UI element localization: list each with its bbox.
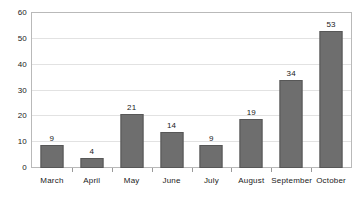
x-axis-category-label: June [152, 176, 192, 186]
x-axis-category-label: April [72, 176, 112, 186]
bar-slot: 21 [112, 13, 152, 168]
x-axis-tick [112, 168, 113, 172]
x-axis-tick [271, 168, 272, 172]
bar-slot: 4 [72, 13, 112, 168]
bar-slot: 9 [32, 13, 72, 168]
x-axis-tick [192, 168, 193, 172]
bar-slot: 9 [192, 13, 232, 168]
bar [160, 132, 183, 168]
x-axis-category-label: September [271, 176, 311, 186]
y-axis-tick-label: 10 [0, 138, 27, 146]
x-axis-category-label: July [192, 176, 232, 186]
bar [40, 145, 63, 168]
y-axis-labels: 6050403020100 [0, 0, 27, 200]
bar-value-label: 21 [127, 103, 136, 112]
x-axis-labels: MarchAprilMayJuneJulyAugustSeptemberOcto… [32, 176, 351, 192]
bar-slot: 53 [311, 13, 351, 168]
bar [280, 80, 303, 168]
bar [320, 31, 343, 168]
bar-value-label: 19 [247, 108, 256, 117]
bar [200, 145, 223, 168]
x-axis-category-label: August [231, 176, 271, 186]
x-axis-tick [231, 168, 232, 172]
bar-chart: 6050403020100 9421149193453 MarchAprilMa… [0, 0, 360, 200]
x-axis-tick [72, 168, 73, 172]
bar-value-label: 14 [167, 121, 176, 130]
bar [80, 158, 103, 168]
x-axis-tick [311, 168, 312, 172]
bar-value-label: 4 [89, 147, 94, 156]
y-axis-tick-label: 30 [0, 87, 27, 95]
y-axis-tick-label: 50 [0, 35, 27, 43]
bar-value-label: 9 [50, 134, 55, 143]
y-axis-tick-label: 20 [0, 112, 27, 120]
bar-slot: 34 [271, 13, 311, 168]
bar [240, 119, 263, 168]
bar-value-label: 34 [287, 69, 296, 78]
bar-slot: 19 [231, 13, 271, 168]
bars-container: 9421149193453 [32, 13, 351, 168]
y-axis-tick-label: 0 [0, 164, 27, 172]
y-axis-tick-label: 60 [0, 9, 27, 17]
bar-value-label: 53 [326, 20, 335, 29]
x-axis-ticks [32, 168, 351, 173]
x-axis-category-label: March [32, 176, 72, 186]
bar [120, 114, 143, 168]
x-axis-category-label: October [311, 176, 351, 186]
y-axis-tick-label: 40 [0, 61, 27, 69]
x-axis-tick [152, 168, 153, 172]
x-axis-category-label: May [112, 176, 152, 186]
bar-value-label: 9 [209, 134, 214, 143]
bar-slot: 14 [152, 13, 192, 168]
